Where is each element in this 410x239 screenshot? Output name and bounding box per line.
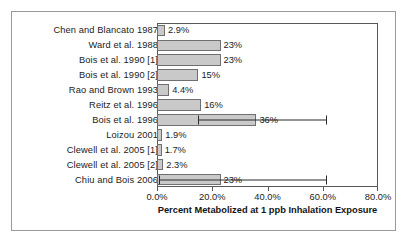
bar-track: 1.7% bbox=[157, 142, 378, 157]
bar-track: 4.4% bbox=[157, 83, 378, 98]
bar bbox=[157, 84, 169, 96]
error-bar-line bbox=[159, 179, 325, 180]
error-bar-cap-low bbox=[159, 175, 160, 184]
category-label: Bois et al. 1990 [2] bbox=[79, 70, 158, 80]
x-axis-tick bbox=[377, 187, 378, 191]
bar-track: 1.9% bbox=[157, 127, 378, 142]
bar-track: 16% bbox=[157, 98, 378, 113]
figure-canvas: Chen and Blancato 19872.9%Ward et al. 19… bbox=[0, 0, 410, 239]
category-label: Ward et al. 1988 bbox=[89, 40, 158, 50]
bar-row: Chiu and Bois 200623% bbox=[14, 172, 397, 187]
bar-value-label: 16% bbox=[201, 100, 223, 110]
x-axis-tick-label: 60.0% bbox=[310, 192, 336, 202]
bar-value-label: 23% bbox=[221, 55, 243, 65]
bar bbox=[157, 99, 201, 111]
bar-row: Clewell et al. 2005 [2]2.3% bbox=[14, 157, 397, 172]
bar-row: Chen and Blancato 19872.9% bbox=[14, 23, 397, 38]
bar-value-label: 15% bbox=[198, 70, 220, 80]
bar-track: 2.9% bbox=[157, 23, 378, 38]
bar-track: 23% bbox=[157, 53, 378, 68]
category-label: Clewell et al. 2005 [1] bbox=[67, 145, 158, 155]
bar-value-label: 23% bbox=[221, 40, 243, 50]
category-label: Bois et al. 1996 bbox=[92, 115, 158, 125]
error-bar-cap-low bbox=[198, 115, 199, 124]
error-bar-cap-high bbox=[326, 115, 327, 124]
bar bbox=[157, 40, 221, 52]
bar-value-label: 1.7% bbox=[162, 145, 186, 155]
x-axis-tick bbox=[212, 187, 213, 191]
bar-track: 23% bbox=[157, 38, 378, 53]
x-axis-tick-label: 80.0% bbox=[365, 192, 391, 202]
bar-value-label: 2.3% bbox=[163, 160, 187, 170]
category-label: Loizou 2001 bbox=[106, 130, 158, 140]
bar-row: Bois et al. 1990 [2]15% bbox=[14, 68, 397, 83]
bar bbox=[157, 54, 221, 66]
bar-value-label: 1.9% bbox=[162, 130, 186, 140]
bar-value-label: 36% bbox=[256, 115, 278, 125]
x-axis-tick bbox=[268, 187, 269, 191]
x-axis-title: Percent Metabolized at 1 ppb Inhalation … bbox=[157, 205, 378, 215]
x-axis-tick bbox=[323, 187, 324, 191]
bar bbox=[157, 25, 165, 37]
bar-rows-container: Chen and Blancato 19872.9%Ward et al. 19… bbox=[14, 23, 397, 187]
category-label: Rao and Brown 1993 bbox=[69, 85, 158, 95]
x-axis-tick-label: 40.0% bbox=[254, 192, 280, 202]
bar-row: Bois et al. 199636% bbox=[14, 112, 397, 127]
bar-row: Ward et al. 198823% bbox=[14, 38, 397, 53]
category-label: Reitz et al. 1996 bbox=[89, 100, 158, 110]
x-axis-tick-label: 0.0% bbox=[146, 192, 167, 202]
bar-row: Loizou 20011.9% bbox=[14, 127, 397, 142]
category-label: Chen and Blancato 1987 bbox=[53, 25, 158, 35]
bar-value-label: 4.4% bbox=[169, 85, 193, 95]
category-label: Bois et al. 1990 [1] bbox=[79, 55, 158, 65]
bar-row: Clewell et al. 2005 [1]1.7% bbox=[14, 142, 397, 157]
bar-track: 23% bbox=[157, 172, 378, 187]
bar-value-label: 23% bbox=[221, 175, 243, 185]
category-label: Chiu and Bois 2006 bbox=[75, 175, 158, 185]
error-bar-cap-high bbox=[326, 175, 327, 184]
bar-track: 2.3% bbox=[157, 157, 378, 172]
x-axis-tick bbox=[157, 187, 158, 191]
bar-row: Bois et al. 1990 [1]23% bbox=[14, 53, 397, 68]
bar-track: 15% bbox=[157, 68, 378, 83]
x-axis-tick-label: 20.0% bbox=[199, 192, 225, 202]
category-label: Clewell et al. 2005 [2] bbox=[67, 160, 158, 170]
bar-value-label: 2.9% bbox=[165, 25, 189, 35]
bar-track: 36% bbox=[157, 112, 378, 127]
bar-row: Reitz et al. 199616% bbox=[14, 98, 397, 113]
bar bbox=[157, 69, 198, 81]
bar-row: Rao and Brown 19934.4% bbox=[14, 83, 397, 98]
